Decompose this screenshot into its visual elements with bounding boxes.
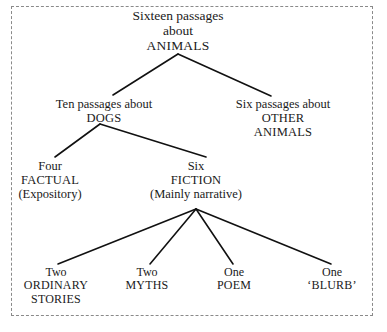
edge-fiction-to-ordinary-stories xyxy=(58,209,196,264)
node-fiction-line-3: (Mainly narrative) xyxy=(150,187,242,201)
node-dogs-line-2: DOGS xyxy=(56,111,152,125)
node-poem: One POEM xyxy=(217,266,251,293)
node-fiction-line-2: FICTION xyxy=(150,173,242,187)
node-root: Sixteen passages about ANIMALS xyxy=(132,8,223,53)
node-ordinary-stories-line-2: ORDINARY xyxy=(24,279,88,292)
edge-root-to-other-animals xyxy=(178,54,271,96)
node-blurb-line-1: One xyxy=(307,266,356,279)
node-factual-line-1: Four xyxy=(18,159,81,173)
node-ordinary-stories-line-1: Two xyxy=(24,266,88,279)
node-fiction: Six FICTION (Mainly narrative) xyxy=(150,159,242,201)
node-poem-line-1: One xyxy=(217,266,251,279)
node-myths-line-2: MYTHS xyxy=(125,279,168,292)
node-other-animals: Six passages about OTHER ANIMALS xyxy=(236,97,330,139)
node-factual-line-2: FACTUAL xyxy=(18,173,81,187)
node-poem-line-2: POEM xyxy=(217,279,251,292)
node-other-animals-line-1: Six passages about xyxy=(236,97,330,111)
node-root-line-2: about xyxy=(132,23,223,38)
edge-fiction-to-myths xyxy=(150,209,196,264)
node-myths: Two MYTHS xyxy=(125,266,168,293)
node-other-animals-line-3: ANIMALS xyxy=(236,125,330,139)
node-fiction-line-1: Six xyxy=(150,159,242,173)
edge-dogs-to-fiction xyxy=(100,124,206,157)
node-ordinary-stories-line-3: STORIES xyxy=(24,293,88,306)
node-factual-line-3: (Expository) xyxy=(18,187,81,201)
node-blurb: One ‘BLURB’ xyxy=(307,266,356,293)
edge-fiction-to-blurb xyxy=(196,209,331,264)
node-dogs: Ten passages about DOGS xyxy=(56,97,152,125)
node-root-line-1: Sixteen passages xyxy=(132,8,223,23)
node-factual: Four FACTUAL (Expository) xyxy=(18,159,81,201)
edge-dogs-to-factual xyxy=(55,124,100,157)
node-myths-line-1: Two xyxy=(125,266,168,279)
edge-root-to-dogs xyxy=(113,54,178,95)
node-ordinary-stories: Two ORDINARY STORIES xyxy=(24,266,88,306)
node-dogs-line-1: Ten passages about xyxy=(56,97,152,111)
node-root-line-3: ANIMALS xyxy=(132,38,223,53)
node-other-animals-line-2: OTHER xyxy=(236,111,330,125)
diagram-canvas: Sixteen passages about ANIMALS Ten passa… xyxy=(0,0,387,332)
node-blurb-line-2: ‘BLURB’ xyxy=(307,279,356,292)
